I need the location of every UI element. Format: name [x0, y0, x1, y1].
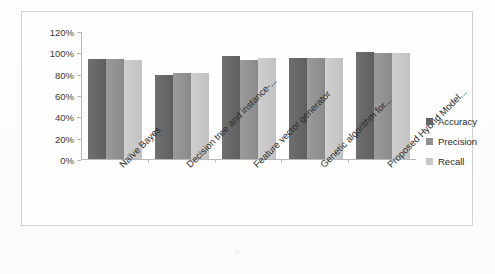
y-axis-tick-label: 100% — [50, 48, 74, 59]
legend-item-accuracy[interactable]: Accuracy — [426, 116, 477, 127]
chart-frame: 120%100%80%60%40%20%0% Naïve BayesDecisi… — [21, 11, 473, 226]
y-axis-tick-label: 80% — [55, 69, 74, 80]
bar-accuracy — [356, 52, 374, 159]
legend-item-label: Recall — [438, 156, 464, 167]
legend-item-recall[interactable]: Recall — [426, 156, 477, 167]
y-axis-tick — [77, 117, 81, 118]
y-axis-tick — [77, 139, 81, 140]
y-axis-tick — [77, 32, 81, 33]
bar-precision — [106, 59, 124, 159]
y-axis-tick — [77, 75, 81, 76]
y-axis-tick — [77, 160, 81, 161]
legend-item-label: Accuracy — [438, 116, 477, 127]
legend-swatch-icon — [426, 138, 433, 145]
chart-legend: AccuracyPrecisionRecall — [426, 116, 477, 167]
y-axis-tick-label: 0% — [60, 155, 74, 166]
x-axis-category-labels: Naïve BayesDecision tree and instance-..… — [82, 162, 417, 234]
y-axis-tick-label: 40% — [55, 112, 74, 123]
bar-accuracy — [88, 59, 106, 159]
y-axis-tick — [77, 96, 81, 97]
bar-accuracy — [155, 75, 173, 159]
y-axis-tick-label: 60% — [55, 91, 74, 102]
legend-item-precision[interactable]: Precision — [426, 136, 477, 147]
legend-swatch-icon — [426, 118, 433, 125]
y-axis-tick — [77, 53, 81, 54]
y-axis-tick-label: 120% — [50, 27, 74, 38]
legend-item-label: Precision — [438, 136, 477, 147]
bar-precision — [173, 73, 191, 159]
legend-swatch-icon — [426, 158, 433, 165]
y-axis-tick-label: 20% — [55, 133, 74, 144]
